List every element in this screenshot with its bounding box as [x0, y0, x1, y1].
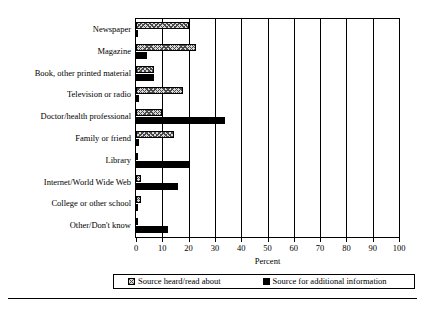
bar-additional-information: [136, 52, 147, 59]
legend-entry-source-for-additional-information: Source for additional information: [263, 276, 387, 287]
legend-entry-source-heard-read-about: Source heard/read about: [128, 276, 221, 287]
bar-heard-read-about: [136, 131, 174, 138]
x-tick-label: 20: [184, 243, 193, 254]
x-tick-0: [136, 238, 137, 242]
category-label: Internet/World Wide Web: [0, 177, 131, 187]
bar-group: [136, 19, 399, 41]
category-label: Library: [0, 155, 131, 165]
bar-heard-read-about: [136, 22, 189, 29]
bar-additional-information: [136, 139, 139, 146]
bar-heard-read-about: [136, 66, 154, 73]
x-tick-50: [268, 238, 269, 242]
solid-black-swatch-icon: [263, 278, 270, 285]
category-label: Doctor/health professional: [0, 111, 131, 121]
bar-additional-information: [136, 74, 154, 81]
footer-rule: [8, 298, 417, 299]
chart-legend: Source heard/read about Source for addit…: [113, 274, 415, 289]
bar-heard-read-about: [136, 218, 138, 225]
x-tick-label: 50: [263, 243, 272, 254]
x-tick-label: 10: [158, 243, 167, 254]
bar-additional-information: [136, 183, 178, 190]
x-tick-label: 70: [316, 243, 325, 254]
x-tick-100: [399, 238, 400, 242]
x-tick-40: [241, 238, 242, 242]
legend-label-source-for-additional-information: Source for additional information: [273, 276, 387, 287]
bar-heard-read-about: [136, 153, 138, 160]
bar-group: [136, 41, 399, 63]
bar-group: [136, 128, 399, 150]
bar-heard-read-about: [136, 196, 141, 203]
gridline-100: [399, 19, 400, 237]
x-axis-tick-labels: 0102030405060708090100: [135, 243, 400, 255]
x-tick-90: [373, 238, 374, 242]
x-tick-60: [294, 238, 295, 242]
x-tick-label: 40: [237, 243, 246, 254]
bar-group: [136, 172, 399, 194]
x-tick-30: [215, 238, 216, 242]
category-label: College or other school: [0, 198, 131, 208]
bar-group: [136, 63, 399, 85]
bar-group: [136, 150, 399, 172]
bar-additional-information: [136, 161, 189, 168]
category-label: Magazine: [0, 46, 131, 56]
category-axis-labels: NewspaperMagazineBook, other printed mat…: [0, 18, 131, 238]
bar-group: [136, 106, 399, 128]
category-label: Newspaper: [0, 24, 131, 34]
bar-heard-read-about: [136, 44, 196, 51]
bar-chart-figure: NewspaperMagazineBook, other printed mat…: [0, 0, 425, 310]
bar-group: [136, 215, 399, 237]
x-tick-70: [320, 238, 321, 242]
x-tick-10: [162, 238, 163, 242]
x-tick-label: 60: [290, 243, 299, 254]
bar-heard-read-about: [136, 175, 141, 182]
bar-additional-information: [136, 30, 138, 37]
x-tick-label: 100: [393, 243, 406, 254]
bar-heard-read-about: [136, 109, 162, 116]
plot-area: [135, 18, 400, 238]
x-axis-title: Percent: [135, 256, 400, 267]
x-tick-label: 80: [342, 243, 351, 254]
bar-additional-information: [136, 226, 168, 233]
bar-group: [136, 193, 399, 215]
category-label: Other/Don't know: [0, 220, 131, 230]
category-label: Book, other printed material: [0, 68, 131, 78]
x-tick-80: [346, 238, 347, 242]
legend-label-source-heard-read-about: Source heard/read about: [138, 276, 221, 287]
category-label: Family or friend: [0, 133, 131, 143]
bar-heard-read-about: [136, 87, 183, 94]
x-tick-label: 90: [368, 243, 377, 254]
bar-additional-information: [136, 204, 138, 211]
cross-hatch-swatch-icon: [128, 278, 135, 285]
x-tick-label: 0: [134, 243, 138, 254]
x-tick-20: [189, 238, 190, 242]
bar-group: [136, 84, 399, 106]
x-tick-label: 30: [211, 243, 220, 254]
bar-additional-information: [136, 117, 225, 124]
category-label: Television or radio: [0, 89, 131, 99]
bar-additional-information: [136, 95, 139, 102]
